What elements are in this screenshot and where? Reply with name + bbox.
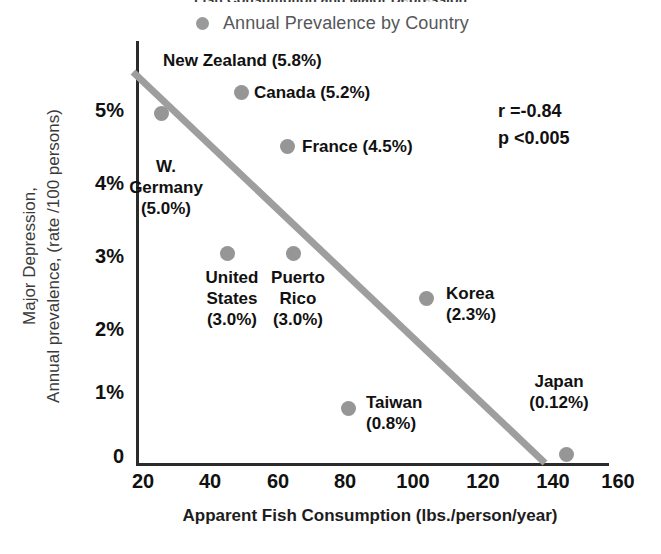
point-label-korea: Korea (2.3%) — [446, 283, 566, 325]
x-tick-label-140: 140 — [523, 470, 583, 493]
x-tick-label-100: 100 — [383, 470, 443, 493]
statistics-annotation: r =-0.84 p <0.005 — [498, 98, 570, 152]
data-point-puerto-rico[interactable] — [286, 246, 301, 261]
y-tick-label-1: 1% — [76, 381, 124, 404]
x-axis-title: Apparent Fish Consumption (lbs./person/y… — [110, 506, 630, 526]
data-point-japan[interactable] — [559, 447, 574, 462]
data-point-korea[interactable] — [419, 291, 434, 306]
y-tick-5: 5% — [76, 99, 132, 122]
y-tick-label-3: 3% — [76, 245, 124, 268]
y-tick-1: 1% — [76, 381, 132, 404]
y-tick-label-2: 2% — [76, 318, 124, 341]
data-point-canada[interactable] — [234, 85, 249, 100]
data-point-w-germany[interactable] — [154, 106, 169, 121]
legend-marker-icon — [196, 17, 209, 30]
y-tick-0: 0 — [76, 445, 132, 468]
y-axis-title-line2: Annual prevalence, (rate /100 persons) — [42, 46, 66, 466]
x-tick-label-20: 20 — [113, 470, 173, 493]
correlation-value: r =-0.84 — [498, 98, 570, 125]
x-tick-label-40: 40 — [180, 470, 240, 493]
point-label-taiwan: Taiwan (0.8%) — [366, 392, 496, 434]
x-tick-label-120: 120 — [453, 470, 513, 493]
point-label-puerto-rico: Puerto Rico (3.0%) — [246, 267, 350, 330]
point-label-w-germany: W. Germany (5.0%) — [110, 156, 222, 219]
pvalue-value: p <0.005 — [498, 125, 570, 152]
x-axis-line — [136, 463, 609, 466]
data-point-taiwan[interactable] — [341, 401, 356, 416]
x-tick-label-160: 160 — [588, 470, 648, 493]
y-tick-label-5: 5% — [76, 99, 124, 122]
point-label-new-zealand: New Zealand (5.8%) — [163, 50, 403, 71]
chart-legend: Annual Prevalence by Country — [196, 13, 469, 34]
data-point-france[interactable] — [280, 139, 295, 154]
chart-container: Fish Consumption and Major Depression An… — [0, 0, 661, 554]
x-tick-label-80: 80 — [315, 470, 375, 493]
x-tick-label-60: 60 — [248, 470, 308, 493]
legend-label-annual-prevalence: Annual Prevalence by Country — [223, 13, 469, 34]
y-tick-2: 2% — [76, 318, 132, 341]
point-label-canada: Canada (5.2%) — [254, 82, 464, 103]
point-label-france: France (4.5%) — [302, 136, 502, 157]
point-label-japan: Japan (0.12%) — [494, 371, 624, 413]
data-point-united-states[interactable] — [220, 246, 235, 261]
chart-title-clipped: Fish Consumption and Major Depression — [0, 0, 661, 2]
y-tick-label-0: 0 — [76, 445, 124, 468]
y-axis-line — [136, 41, 139, 465]
y-tick-3: 3% — [76, 245, 132, 268]
y-axis-title: Major Depression, Annual prevalence, (ra… — [18, 46, 66, 466]
y-axis-title-line1: Major Depression, — [18, 46, 42, 466]
